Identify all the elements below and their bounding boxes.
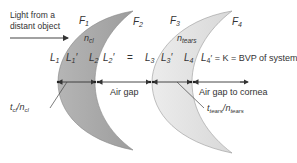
lens2-reduced-thickness-label: ttears/ntears bbox=[207, 103, 244, 114]
contact-lens-shape bbox=[58, 11, 133, 150]
surface-f3: F3 bbox=[170, 15, 180, 27]
svg-text:L3: L3 bbox=[145, 52, 155, 64]
svg-text:L2′: L2′ bbox=[103, 52, 115, 64]
svg-text:=: = bbox=[127, 52, 133, 63]
surface-f2: F2 bbox=[133, 16, 143, 28]
optical-diagram: Light from a distant object F1 F2 F3 F4 … bbox=[0, 0, 297, 163]
svg-text:L4′ = K = BVP of system: L4′ = K = BVP of system bbox=[201, 52, 297, 64]
surface-f4: F4 bbox=[232, 16, 242, 28]
svg-text:L1: L1 bbox=[50, 52, 60, 64]
lens1-reduced-thickness-label: tcl/ncl bbox=[10, 102, 29, 113]
air-gap-label: Air gap bbox=[110, 87, 139, 97]
surface-f1: F1 bbox=[79, 15, 89, 27]
incoming-light-label: Light from a distant object bbox=[10, 10, 61, 31]
air-gap-cornea-label: Air gap to cornea bbox=[199, 87, 268, 97]
